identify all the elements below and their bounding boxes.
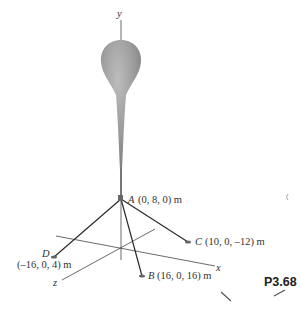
cable-AD: [54, 199, 121, 257]
anchor-A: [118, 195, 123, 201]
balloon: [101, 40, 141, 196]
svg-text:(–16, 0, 4) m: (–16, 0, 4) m: [17, 259, 72, 271]
point-C-label: C (10, 0, –12) m: [195, 236, 265, 248]
problem-number: P3.68: [264, 275, 297, 289]
point-A-label: A (0, 8, 0) m: [127, 194, 182, 206]
z-axis-label: z: [52, 277, 57, 288]
svg-text:(0, 8, 0) m: (0, 8, 0) m: [138, 194, 182, 206]
balloon-diagram: y x z A (0, 8, 0) m B (16, 0, 16) m C (1…: [0, 0, 300, 317]
y-axis-label: y: [116, 8, 122, 19]
anchor-C: [185, 241, 191, 244]
svg-text:A: A: [127, 194, 135, 205]
anchor-B: [139, 275, 145, 278]
svg-text:C: C: [195, 236, 203, 247]
svg-text:D: D: [41, 248, 50, 259]
svg-text:(16, 0, 16) m: (16, 0, 16) m: [157, 270, 212, 282]
svg-text:B: B: [148, 270, 155, 281]
point-D-label: D (–16, 0, 4) m: [17, 248, 72, 271]
x-axis-label: x: [215, 262, 221, 273]
point-B-label: B (16, 0, 16) m: [148, 270, 212, 282]
svg-text:(10, 0, –12) m: (10, 0, –12) m: [205, 236, 265, 248]
